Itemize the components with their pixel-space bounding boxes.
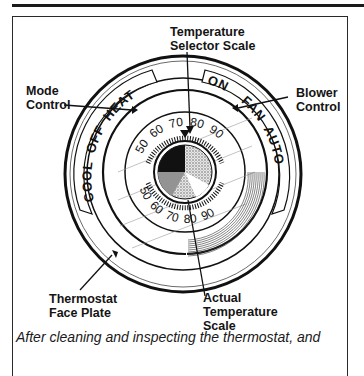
selector-tick-70: 70: [167, 115, 184, 131]
label-line: Thermostat: [49, 292, 117, 306]
label-face-plate: Thermostat Face Plate: [49, 292, 117, 320]
label-line: Control: [296, 100, 340, 114]
mode-option-cool[interactable]: COOL: [79, 161, 97, 204]
label-line: Face Plate: [49, 306, 117, 320]
label-line: Control: [26, 98, 70, 112]
label-actual-temperature: Actual Temperature Scale: [203, 291, 278, 333]
center-disc: [154, 141, 216, 203]
actual-tick-70: 70: [164, 208, 181, 225]
figure-caption: After cleaning and inspecting the thermo…: [16, 329, 320, 345]
label-line: Blower: [296, 86, 340, 100]
label-line: Actual: [203, 291, 278, 305]
label-line: Selector Scale: [170, 39, 255, 53]
selector-tick-90: 90: [207, 122, 227, 142]
label-line: Temperature: [170, 25, 255, 39]
label-line: Mode: [26, 84, 70, 98]
label-blower-control: Blower Control: [296, 86, 340, 114]
selector-pointer-icon: [180, 130, 190, 138]
faceplate-arrowhead-icon: [112, 250, 118, 258]
actual-tick-90: 90: [199, 205, 217, 223]
label-mode-control: Mode Control: [26, 84, 70, 112]
label-line: Temperature: [203, 305, 278, 319]
label-temperature-selector: Temperature Selector Scale: [170, 25, 255, 53]
